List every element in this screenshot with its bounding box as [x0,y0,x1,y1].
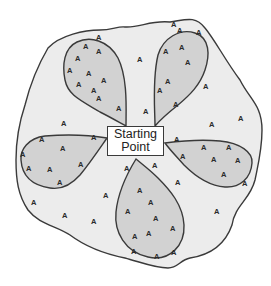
svg-text:A: A [175,178,181,187]
svg-text:A: A [31,198,37,207]
svg-text:A: A [96,94,102,103]
svg-text:A: A [26,164,32,173]
svg-text:A: A [124,164,130,173]
svg-text:A: A [174,135,180,144]
svg-text:A: A [62,211,68,220]
svg-text:A: A [137,55,143,64]
svg-text:A: A [125,207,131,216]
svg-text:A: A [91,217,97,226]
svg-text:A: A [86,69,92,78]
svg-text:A: A [235,156,241,165]
svg-text:A: A [137,186,143,195]
svg-text:A: A [143,107,149,116]
svg-text:A: A [153,214,159,223]
svg-text:A: A [101,76,107,85]
svg-text:A: A [154,252,160,261]
svg-text:A: A [221,170,227,179]
svg-text:A: A [75,54,81,63]
svg-text:A: A [180,152,186,161]
svg-text:A: A [116,104,122,113]
svg-text:A: A [242,179,248,188]
svg-text:A: A [83,42,89,51]
svg-text:A: A [57,178,63,187]
svg-text:A: A [103,191,109,200]
svg-text:A: A [177,26,183,35]
starting-point-label-line2: Point [121,141,150,154]
svg-text:A: A [179,43,185,52]
svg-text:A: A [196,28,202,37]
svg-text:A: A [163,47,169,56]
svg-text:A: A [146,229,152,238]
svg-text:A: A [185,58,191,67]
svg-text:A: A [170,224,176,233]
svg-text:A: A [76,80,82,89]
svg-text:A: A [209,120,215,129]
svg-text:A: A [96,33,102,42]
svg-text:A: A [60,144,66,153]
svg-text:A: A [39,135,45,144]
svg-text:A: A [47,165,53,174]
svg-text:A: A [148,198,154,207]
svg-text:A: A [91,133,97,142]
starting-point-node: Starting Point [107,126,164,156]
svg-text:A: A [132,232,138,241]
svg-text:A: A [171,248,177,257]
svg-text:A: A [203,82,209,91]
svg-text:A: A [20,150,26,159]
svg-text:A: A [96,47,102,56]
svg-text:A: A [165,77,171,86]
svg-text:A: A [67,66,73,75]
svg-text:A: A [131,247,137,256]
svg-text:A: A [214,207,220,216]
svg-text:A: A [152,161,158,170]
svg-text:A: A [157,86,163,95]
svg-text:A: A [173,100,179,109]
svg-text:A: A [226,143,232,152]
svg-text:A: A [238,114,244,123]
svg-text:A: A [201,143,207,152]
svg-text:A: A [211,155,217,164]
svg-text:A: A [61,119,67,128]
svg-text:A: A [78,160,84,169]
